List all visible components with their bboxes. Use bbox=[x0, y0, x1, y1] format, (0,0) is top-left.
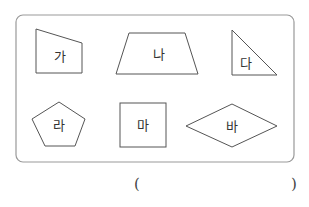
shape-na: 나 bbox=[116, 33, 198, 74]
shape-label-ma: 마 bbox=[137, 118, 149, 133]
shape-ba: 바 bbox=[186, 104, 277, 147]
answer-blank[interactable] bbox=[145, 176, 287, 194]
shape-ra: 라 bbox=[32, 102, 85, 146]
figure-border bbox=[16, 15, 294, 162]
shape-label-na: 나 bbox=[153, 47, 165, 62]
answer-open-paren: ( bbox=[134, 175, 140, 193]
shape-label-ga: 가 bbox=[54, 49, 66, 64]
shape-label-ra: 라 bbox=[53, 118, 65, 133]
shape-ga: 가 bbox=[36, 29, 82, 73]
shape-label-ba: 바 bbox=[226, 119, 238, 134]
shape-ma: 마 bbox=[120, 103, 166, 147]
shape-da: 다 bbox=[232, 30, 277, 75]
answer-close-paren: ) bbox=[291, 175, 297, 193]
shape-label-da: 다 bbox=[240, 56, 252, 71]
